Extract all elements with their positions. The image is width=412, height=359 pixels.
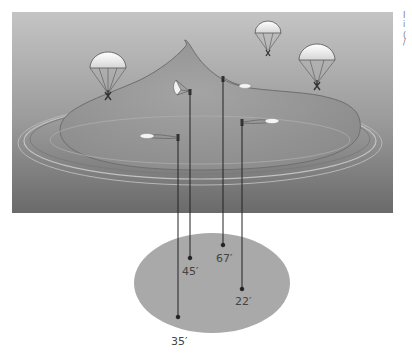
altitude-label-35: 35′ — [171, 335, 188, 348]
altitude-label-45: 45′ — [182, 265, 199, 278]
altitude-label-67: 67′ — [216, 252, 233, 265]
edge-text-1: I — [403, 13, 405, 19]
edge-text-2: i — [403, 22, 405, 28]
edge-text-4: / — [403, 40, 406, 46]
altitude-label-22: 22′ — [235, 295, 252, 308]
landing-zone — [134, 233, 290, 333]
parachute-diagram — [0, 0, 412, 359]
